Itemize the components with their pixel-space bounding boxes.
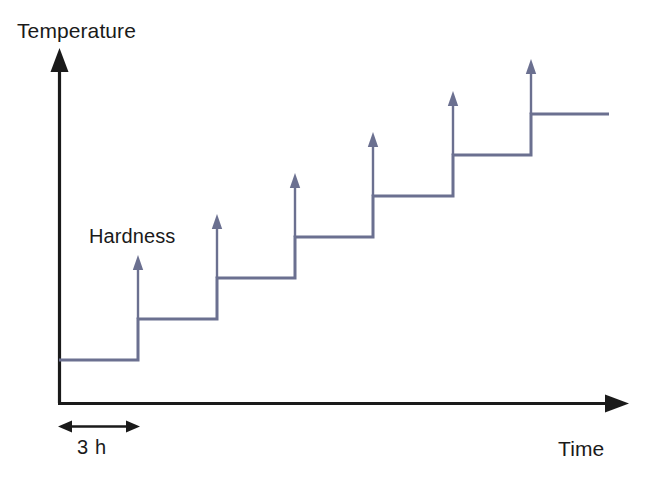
duration-arrowhead-left [58,421,72,433]
duration-arrowhead-right [126,421,140,433]
hardness-arrow-2 [212,214,222,278]
hardness-arrow-3 [290,173,300,237]
x-axis-label: Time [558,438,604,459]
x-axis-arrowhead [605,395,629,413]
hardness-arrow-4 [368,132,378,196]
hardness-arrow-5 [448,91,458,155]
figure-canvas: Temperature Time Hardness 3 h [0,0,660,481]
duration-dimension-arrow [58,421,140,433]
hardness-arrow-6 [526,59,536,114]
y-axis-label: Temperature [17,20,136,41]
hardness-arrows-group [133,59,536,319]
y-axis-arrowhead [51,48,69,72]
hardness-arrow-1 [133,255,143,319]
hardness-annotation-label: Hardness [89,226,175,246]
duration-annotation-label: 3 h [77,437,107,457]
